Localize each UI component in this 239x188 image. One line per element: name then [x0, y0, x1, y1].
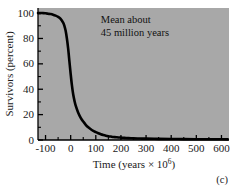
x-axis-title: Time (years × 106)	[93, 157, 176, 171]
x-tick-label: 0	[68, 142, 74, 154]
y-axis-tick-labels: 020406080100	[18, 7, 35, 146]
y-tick-label: 0	[29, 134, 35, 146]
y-tick-label: 100	[18, 7, 35, 19]
x-tick-label: 100	[88, 142, 105, 154]
x-tick-label: 200	[113, 142, 130, 154]
y-tick-label: 60	[23, 57, 35, 69]
y-tick-label: 20	[23, 108, 35, 120]
mean-annotation-line-2: 45 million years	[101, 27, 169, 38]
y-tick-label: 80	[23, 32, 35, 44]
y-tick-label: 40	[23, 83, 35, 95]
y-axis-title: Survivors (percent)	[3, 31, 16, 117]
x-axis-tick-labels: -1000100200300400500600	[35, 142, 230, 154]
panel-label: (c)	[216, 174, 228, 186]
x-axis-title-tail: )	[172, 158, 176, 171]
x-axis-title-main: Time (years × 10	[93, 158, 169, 171]
x-tick-label: -100	[35, 142, 56, 154]
figure-panel: 020406080100 -1000100200300400500600 Sur…	[0, 0, 239, 188]
x-tick-label: 300	[138, 142, 155, 154]
x-tick-label: 400	[163, 142, 180, 154]
mean-annotation-line-1: Mean about	[101, 14, 151, 25]
x-tick-label: 500	[188, 142, 205, 154]
x-tick-label: 600	[213, 142, 230, 154]
survivorship-chart: 020406080100 -1000100200300400500600 Sur…	[0, 0, 239, 188]
